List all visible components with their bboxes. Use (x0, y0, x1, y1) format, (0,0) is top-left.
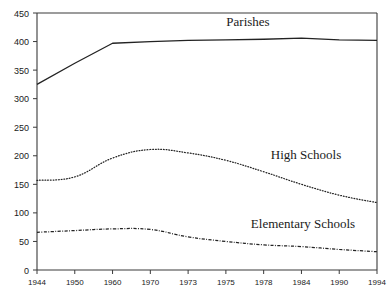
x-tick-label: 1950 (66, 278, 84, 287)
chart-canvas: 050100150200250300350400450 194419501960… (0, 0, 390, 302)
y-tick-label: 200 (14, 151, 29, 161)
series-label-elementary-schools: Elementary Schools (251, 216, 355, 231)
x-tick-label: 1973 (179, 278, 197, 287)
y-tick-label: 100 (14, 208, 29, 218)
x-tick-label: 1970 (141, 278, 159, 287)
series-annotations: ParishesHigh SchoolsElementary Schools (226, 14, 355, 231)
x-tick-label: 1984 (293, 278, 311, 287)
y-tick-label: 400 (14, 37, 29, 47)
line-chart-figure: 050100150200250300350400450 194419501960… (0, 0, 390, 302)
x-tick-label: 1994 (368, 278, 386, 287)
series-label-high-schools: High Schools (271, 147, 341, 162)
y-tick-label: 50 (19, 237, 29, 247)
x-tick-label: 1990 (330, 278, 348, 287)
x-tick-label: 1944 (28, 278, 46, 287)
plot-frame (37, 13, 377, 270)
series-line-parishes (37, 38, 377, 84)
y-tick-label: 250 (14, 123, 29, 133)
y-axis-ticks: 050100150200250300350400450 (14, 9, 37, 276)
y-tick-label: 350 (14, 66, 29, 76)
x-tick-label: 1978 (255, 278, 273, 287)
x-tick-label: 1960 (104, 278, 122, 287)
x-axis-ticks: 1944195019601970197319751978198419901994 (28, 270, 386, 287)
y-tick-label: 450 (14, 9, 29, 19)
y-tick-label: 150 (14, 180, 29, 190)
series-label-parishes: Parishes (226, 14, 269, 29)
y-tick-label: 0 (24, 266, 29, 276)
x-tick-label: 1975 (217, 278, 235, 287)
series-line-elementary-schools (37, 228, 377, 251)
y-tick-label: 300 (14, 94, 29, 104)
